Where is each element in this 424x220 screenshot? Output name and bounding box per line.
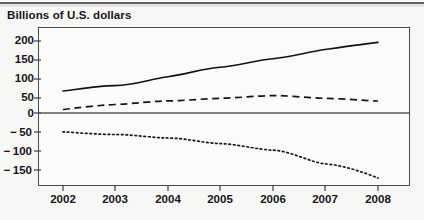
plot-area bbox=[0, 0, 424, 220]
chart-figure: Billions of U.S. dollars 200 150 100 50 … bbox=[0, 0, 424, 220]
x-axis-ticks bbox=[63, 186, 378, 191]
plot-frame bbox=[39, 28, 410, 186]
